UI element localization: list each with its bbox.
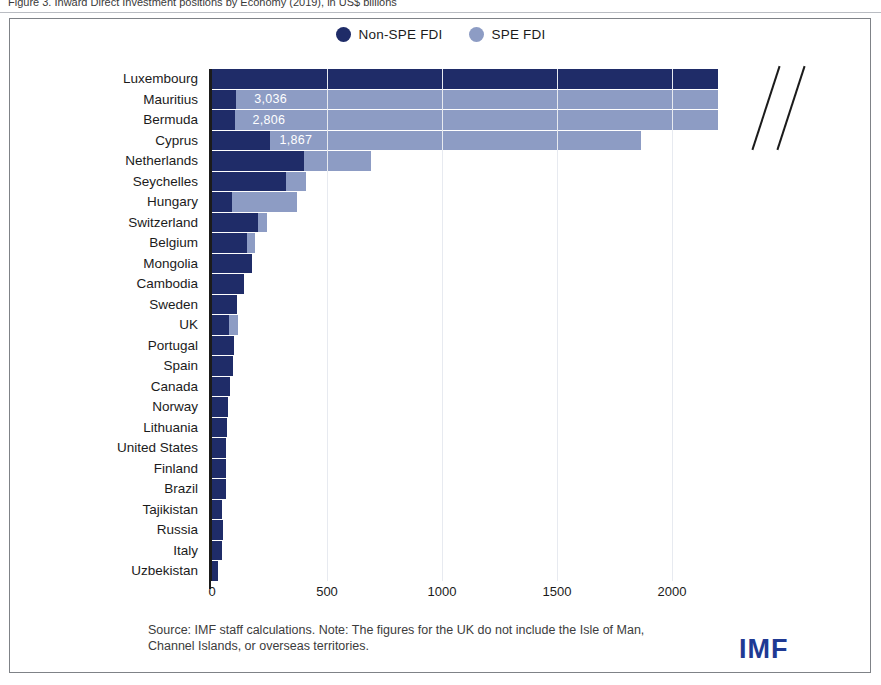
imf-logo: IMF [739,634,789,665]
figure-caption: Figure 3. Inward Direct Investment posit… [8,0,397,8]
chart-legend: Non-SPE FDI SPE FDI [0,27,881,42]
legend-item-non-spe-fdi[interactable]: Non-SPE FDI [336,27,443,42]
circle-icon [336,27,351,42]
legend-label: SPE FDI [492,27,546,42]
chart-frame [9,18,871,673]
legend-label: Non-SPE FDI [359,27,443,42]
chart-footnote: Source: IMF staff calculations. Note: Th… [148,622,668,654]
legend-item-spe-fdi[interactable]: SPE FDI [469,27,546,42]
circle-icon [469,27,484,42]
header-divider [0,12,881,13]
